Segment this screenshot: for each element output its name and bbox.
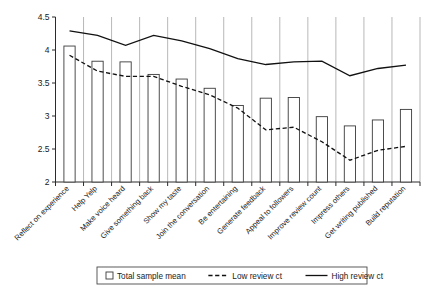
- bar-be-entertaining: [232, 105, 243, 182]
- motivation-means-chart: 22.533.544.5 Reflect on experienceHelp Y…: [0, 0, 429, 298]
- bar-impress-others: [344, 126, 355, 182]
- bar-generate-feedback: [260, 98, 271, 182]
- y-axis-tick-label: 4: [45, 45, 50, 55]
- bar-build-reputation: [400, 109, 411, 182]
- legend-label-total-sample-mean: Total sample mean: [117, 272, 186, 281]
- x-axis-label-reflect-on-experience: Reflect on experience: [13, 184, 71, 242]
- legend-label-low-review-ct: Low review ct: [232, 272, 282, 281]
- bar-appeal-to-followers: [288, 98, 299, 182]
- legend-marker-open-square: [106, 272, 113, 279]
- bar-reflect-on-experience: [64, 46, 75, 182]
- bar-show-my-taste: [176, 79, 187, 182]
- bar-help-yelp: [92, 61, 103, 182]
- y-axis-tick-label: 2.5: [38, 144, 50, 154]
- bar-series-total-sample-mean: [64, 46, 412, 182]
- chart-legend: Total sample meanLow review ctHigh revie…: [97, 267, 384, 284]
- chart-container: 22.533.544.5 Reflect on experienceHelp Y…: [0, 0, 429, 298]
- y-axis-tick-label: 3: [45, 111, 50, 121]
- x-axis-label-get-writing-published: Get writing published: [323, 184, 380, 241]
- bar-join-the-conversation: [204, 88, 215, 182]
- y-axis-ticks: 22.533.544.5: [38, 12, 56, 187]
- x-axis-label-generate-feedback: Generate feedback: [215, 184, 267, 236]
- x-axis-label-give-something-back: Give something back: [99, 184, 156, 241]
- x-axis-label-appeal-to-followers: Appeal to followers: [244, 184, 296, 236]
- bar-make-voice-heard: [120, 62, 131, 182]
- legend-label-high-review-ct: High review ct: [332, 272, 384, 281]
- x-axis-label-join-the-conversation: Join the conversation: [154, 184, 211, 241]
- x-axis-category-labels: Reflect on experienceHelp YelpMake voice…: [13, 182, 420, 242]
- y-axis-tick-label: 2: [45, 177, 50, 187]
- y-axis-tick-label: 3.5: [38, 78, 50, 88]
- y-axis-tick-label: 4.5: [38, 12, 50, 22]
- bar-improve-review-count: [316, 117, 327, 182]
- bar-give-something-back: [148, 74, 159, 182]
